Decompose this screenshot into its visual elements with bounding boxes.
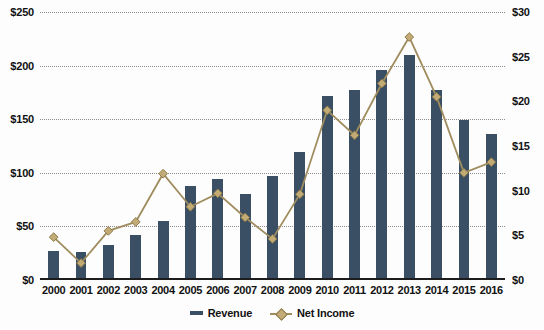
right-axis-tick-label: $5 — [512, 230, 524, 241]
x-axis-label-2008: 2008 — [259, 283, 286, 298]
x-axis-label-2006: 2006 — [204, 283, 231, 298]
x-axis-label-2001: 2001 — [67, 283, 94, 298]
chart-container: $0$50$100$150$200$250 $0$5$10$15$20$25$3… — [0, 0, 544, 330]
x-axis-tick-labels: 2000200120022003200420052006200720082009… — [40, 283, 505, 301]
x-axis-label-2009: 2009 — [286, 283, 313, 298]
net-income-marker-2003[interactable] — [131, 218, 140, 227]
x-axis-label-2013: 2013 — [396, 283, 423, 298]
x-axis-label-2010: 2010 — [314, 283, 341, 298]
legend-item-net-income[interactable]: Net Income — [270, 307, 354, 319]
legend-label-net-income: Net Income — [297, 307, 354, 319]
plot-area — [40, 12, 505, 280]
right-axis-tick-label: $10 — [512, 186, 530, 197]
x-axis-label-2011: 2011 — [341, 283, 368, 298]
x-axis-label-2004: 2004 — [149, 283, 176, 298]
right-axis-tick-label: $0 — [512, 275, 524, 286]
x-axis-label-2002: 2002 — [95, 283, 122, 298]
left-axis-tick-label: $200 — [10, 61, 34, 72]
net-income-marker-2009[interactable] — [295, 190, 304, 199]
net-income-marker-2012[interactable] — [378, 79, 387, 88]
right-axis: $0$5$10$15$20$25$30 — [509, 12, 544, 280]
right-axis-tick-label: $15 — [512, 141, 530, 152]
x-axis-label-2000: 2000 — [40, 283, 67, 298]
right-axis-tick-label: $20 — [512, 96, 530, 107]
x-axis-label-2012: 2012 — [368, 283, 395, 298]
left-axis-tick-label: $150 — [10, 114, 34, 125]
net-income-marker-2013[interactable] — [405, 33, 414, 42]
x-axis-label-2005: 2005 — [177, 283, 204, 298]
right-axis-tick-label: $30 — [512, 7, 530, 18]
x-axis-label-2014: 2014 — [423, 283, 450, 298]
left-axis-tick-label: $100 — [10, 168, 34, 179]
net-income-marker-2015[interactable] — [460, 168, 469, 177]
legend-label-revenue: Revenue — [208, 307, 252, 319]
net-income-line — [54, 37, 492, 263]
right-axis-tick-label: $25 — [512, 52, 530, 63]
x-axis-label-2003: 2003 — [122, 283, 149, 298]
left-axis-tick-label: $50 — [16, 221, 34, 232]
chart-legend: Revenue Net Income — [0, 307, 544, 319]
x-axis-label-2007: 2007 — [231, 283, 258, 298]
line-diamond-icon — [270, 309, 292, 318]
bar-swatch-icon — [190, 311, 203, 315]
x-axis-label-2015: 2015 — [450, 283, 477, 298]
line-series-net-income — [40, 12, 505, 280]
left-axis: $0$50$100$150$200$250 — [0, 12, 36, 280]
legend-item-revenue[interactable]: Revenue — [190, 307, 252, 319]
left-axis-tick-label: $250 — [10, 7, 34, 18]
left-axis-tick-label: $0 — [22, 275, 34, 286]
net-income-marker-2014[interactable] — [432, 92, 441, 101]
x-axis-baseline — [40, 278, 505, 280]
x-axis-label-2016: 2016 — [478, 283, 505, 298]
net-income-marker-2016[interactable] — [487, 158, 496, 167]
